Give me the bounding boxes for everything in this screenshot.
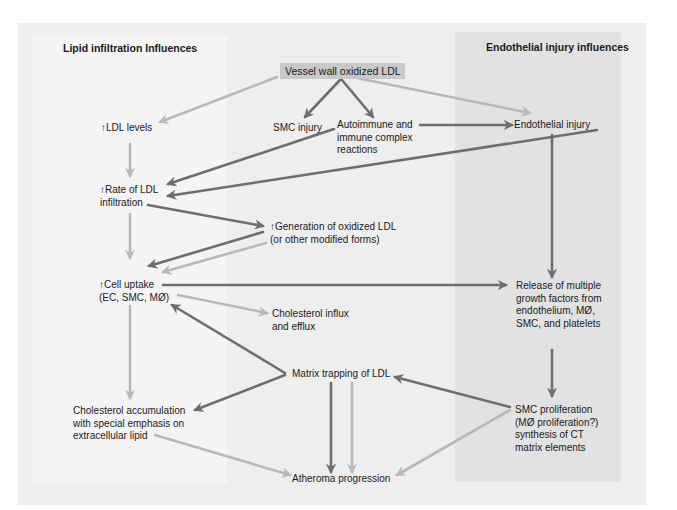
node-cell-uptake-line1: ↑Cell uptake — [99, 279, 169, 292]
node-rate-ldl-line1: ↑Rate of LDL — [100, 184, 158, 197]
node-growth-factors-line1: Release of multiple — [516, 280, 602, 293]
node-generation-line2: (or other modified forms) — [270, 234, 396, 247]
node-cholesterol-flux: Cholesterol influx and efflux — [272, 308, 349, 333]
node-cholesterol-accumulation: Cholesterol accumulation with special em… — [73, 405, 185, 443]
node-growth-factors-line3: endothelium, MØ, — [516, 305, 602, 318]
node-growth-factors: Release of multiple growth factors from … — [516, 280, 602, 330]
node-cholesterol-flux-line2: and efflux — [272, 321, 349, 334]
node-smc-prolif-line1: SMC proliferation — [515, 404, 598, 417]
node-atheroma-progression: Atheroma progression — [292, 473, 390, 486]
node-vessel-wall-oxidized-ldl: Vessel wall oxidized LDL — [280, 63, 405, 79]
node-matrix-trapping: Matrix trapping of LDL — [292, 368, 390, 381]
node-autoimmune-line3: reactions — [337, 144, 413, 157]
node-autoimmune-line2: immune complex — [337, 132, 413, 145]
node-autoimmune-line1: Autoimmune and — [337, 119, 413, 132]
node-ldl-levels: ↑LDL levels — [101, 122, 152, 135]
node-growth-factors-line4: SMC, and platelets — [516, 318, 602, 331]
node-smc-proliferation: SMC proliferation (MØ proliferation?) sy… — [515, 404, 598, 454]
node-cholesterol-accum-line3: extracellular lipid — [73, 430, 185, 443]
node-smc-injury: SMC injury — [273, 122, 322, 135]
node-cell-uptake: ↑Cell uptake (EC, SMC, MØ) — [99, 279, 169, 304]
node-smc-prolif-line3: synthesis of CT — [515, 429, 598, 442]
node-cell-uptake-line2: (EC, SMC, MØ) — [99, 292, 169, 305]
node-cholesterol-accum-line2: with special emphasis on — [73, 418, 185, 431]
right-panel-title: Endothelial injury influences — [486, 41, 629, 53]
node-rate-ldl-line2: infiltration — [100, 197, 158, 210]
node-generation-oxidized-ldl: ↑Generation of oxidized LDL (or other mo… — [270, 221, 396, 246]
node-smc-prolif-line2: (MØ proliferation?) — [515, 417, 598, 430]
left-panel-title: Lipid infiltration Influences — [63, 42, 197, 54]
node-generation-line1: ↑Generation of oxidized LDL — [270, 221, 396, 234]
node-smc-prolif-line4: matrix elements — [515, 442, 598, 455]
node-growth-factors-line2: growth factors from — [516, 293, 602, 306]
node-cholesterol-accum-line1: Cholesterol accumulation — [73, 405, 185, 418]
node-autoimmune: Autoimmune and immune complex reactions — [337, 119, 413, 157]
node-cholesterol-flux-line1: Cholesterol influx — [272, 308, 349, 321]
node-rate-ldl-infiltration: ↑Rate of LDL infiltration — [100, 184, 158, 209]
node-endothelial-injury: Endothelial injury — [514, 119, 590, 132]
